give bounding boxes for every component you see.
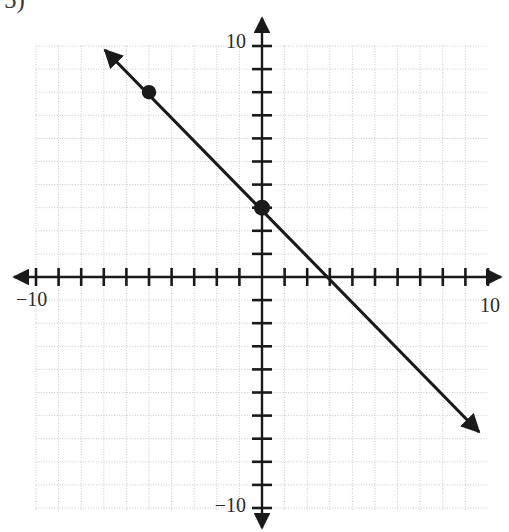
plotted-point — [142, 85, 156, 99]
x-axis-negative-label: −10 — [16, 288, 47, 310]
coordinate-plane-graph: 10 −10 −10 10 — [0, 0, 509, 532]
x-axis-positive-label: 10 — [480, 294, 500, 316]
figure-canvas: 5) 10 −10 −10 10 — [0, 0, 509, 532]
y-axis-positive-label: 10 — [226, 30, 246, 52]
y-axis-negative-label: −10 — [215, 494, 246, 516]
plotted-point — [254, 200, 270, 216]
